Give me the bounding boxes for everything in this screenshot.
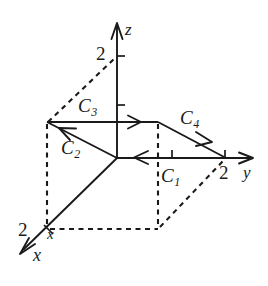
tick-label-y-2: 2: [219, 163, 229, 182]
curve-label-C2: C2: [61, 138, 80, 160]
figure-vector-graphic: [0, 0, 268, 286]
x-axis: [20, 158, 117, 254]
curve-C3-path: [47, 116, 158, 129]
curve-label-C1-base: C: [161, 165, 174, 186]
curve-label-C3: C3: [78, 96, 97, 118]
curve-C2-path: [47, 122, 117, 158]
curve-label-C2-subscript: 2: [74, 147, 80, 161]
curve-label-C1: C1: [161, 166, 180, 188]
curve-label-C4-base: C: [180, 107, 193, 128]
curve-label-C4-subscript: 4: [193, 117, 199, 131]
axis-label-x-secondary: x: [47, 227, 54, 242]
axis-label-x-primary: x: [33, 246, 41, 264]
math-figure-3d-axes: z y x x 2 2 2 C3 C2 C4 C1: [0, 0, 268, 286]
curve-label-C1-subscript: 1: [174, 175, 180, 189]
curve-label-C3-base: C: [78, 95, 91, 116]
axis-label-z: z: [125, 21, 132, 38]
tick-label-z-2: 2: [96, 44, 106, 63]
axis-label-y: y: [243, 164, 251, 181]
curve-label-C2-base: C: [61, 137, 74, 158]
curve-label-C4: C4: [180, 108, 199, 130]
z-axis: [112, 23, 126, 158]
tick-label-x-2: 2: [18, 220, 28, 239]
curve-label-C3-subscript: 3: [91, 105, 97, 119]
